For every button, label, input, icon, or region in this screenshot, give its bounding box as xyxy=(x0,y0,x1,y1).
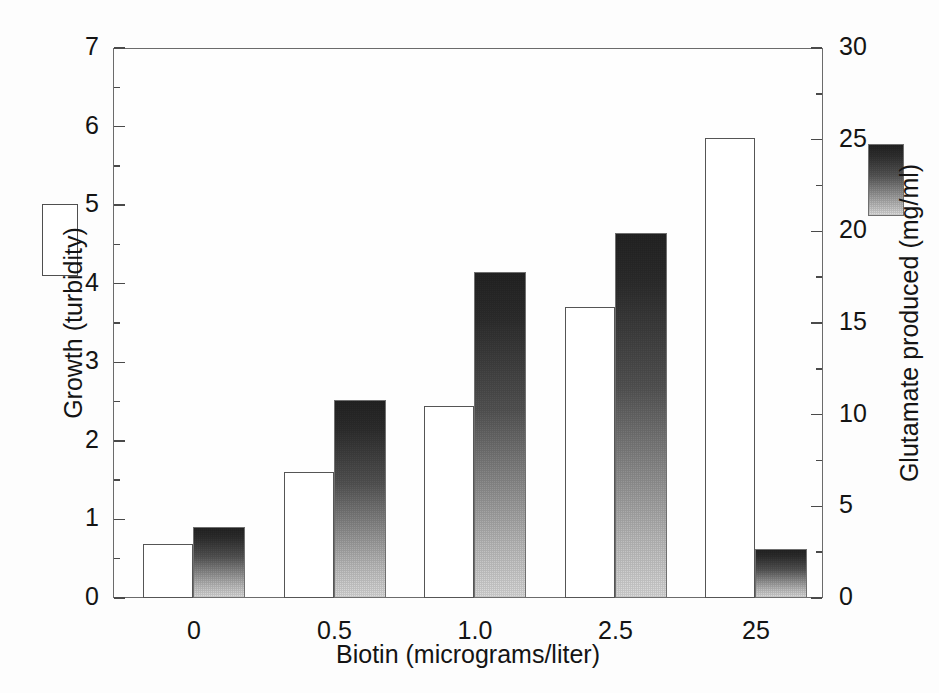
axis-tick-label-right: 15 xyxy=(839,309,893,334)
plot-area xyxy=(113,48,823,598)
bar-glutamate xyxy=(193,527,245,599)
axis-tick-right-minor xyxy=(816,93,822,94)
axis-tick-left-minor xyxy=(114,558,120,559)
axis-tick-right-minor xyxy=(816,276,822,277)
bar-group xyxy=(565,48,667,598)
halftone-texture xyxy=(335,401,385,597)
halftone-texture xyxy=(756,550,806,598)
axis-tick-right-minor xyxy=(816,460,822,461)
axis-tick-label-left: 4 xyxy=(55,270,99,295)
axis-tick-right-major xyxy=(811,597,822,598)
bar-glutamate xyxy=(615,233,667,598)
axis-tick-label-left: 1 xyxy=(55,505,99,530)
axis-tick-right-major xyxy=(811,506,822,507)
axis-tick-right-major xyxy=(811,47,822,48)
axis-tick-label-right: 25 xyxy=(839,126,893,151)
axis-tick-left-major xyxy=(114,362,125,363)
axis-tick-label-left: 7 xyxy=(55,34,99,59)
axis-tick-right-minor xyxy=(816,185,822,186)
axis-tick-left-major xyxy=(114,126,125,127)
axis-tick-label-right: 10 xyxy=(839,401,893,426)
bar-glutamate xyxy=(755,549,807,599)
axis-tick-left-major xyxy=(114,440,125,441)
axis-tick-left-minor xyxy=(114,244,120,245)
halftone-texture xyxy=(475,273,525,597)
axis-tick-label-right: 0 xyxy=(839,584,893,609)
axis-tick-left-major xyxy=(114,597,125,598)
bar-group xyxy=(705,48,807,598)
axis-tick-right-major xyxy=(811,322,822,323)
x-tick-label: 1.0 xyxy=(425,616,525,645)
axis-tick-label-left: 2 xyxy=(55,427,99,452)
chart-figure: Growth (turbidity) Glutamate produced (m… xyxy=(0,0,939,693)
axis-tick-left-minor xyxy=(114,165,120,166)
axis-tick-right-major xyxy=(811,231,822,232)
y-axis-right-title: Glutamate produced (mg/ml) xyxy=(892,48,926,598)
bar-glutamate xyxy=(474,272,526,598)
axis-tick-label-left: 5 xyxy=(55,191,99,216)
bar-group xyxy=(424,48,526,598)
axis-tick-label-left: 0 xyxy=(55,584,99,609)
bar-group xyxy=(143,48,245,598)
axis-tick-right-minor xyxy=(816,551,822,552)
axis-tick-left-major xyxy=(114,47,125,48)
bar-growth xyxy=(424,406,474,599)
axis-tick-label-right: 20 xyxy=(839,217,893,242)
bar-growth xyxy=(284,472,334,598)
axis-tick-label-right: 5 xyxy=(839,492,893,517)
halftone-texture xyxy=(194,528,244,598)
axis-tick-left-major xyxy=(114,519,125,520)
axis-tick-label-right: 30 xyxy=(839,34,893,59)
bar-growth xyxy=(143,544,193,598)
axis-tick-left-minor xyxy=(114,322,120,323)
bar-group xyxy=(284,48,386,598)
x-tick-label: 25 xyxy=(706,616,806,645)
bar-growth xyxy=(705,138,755,598)
axis-tick-right-major xyxy=(811,414,822,415)
axis-tick-label-left: 3 xyxy=(55,348,99,373)
x-tick-label: 0.5 xyxy=(285,616,385,645)
axis-tick-right-minor xyxy=(816,368,822,369)
axis-tick-left-major xyxy=(114,204,125,205)
axis-tick-left-minor xyxy=(114,87,120,88)
axis-tick-left-minor xyxy=(114,401,120,402)
x-tick-label: 2.5 xyxy=(566,616,666,645)
x-tick-label: 0 xyxy=(144,616,244,645)
axis-tick-right-major xyxy=(811,139,822,140)
halftone-texture xyxy=(616,234,666,597)
axis-tick-left-major xyxy=(114,283,125,284)
axis-tick-left-minor xyxy=(114,479,120,480)
bar-glutamate xyxy=(334,400,386,598)
axis-tick-label-left: 6 xyxy=(55,113,99,138)
bar-growth xyxy=(565,307,615,598)
